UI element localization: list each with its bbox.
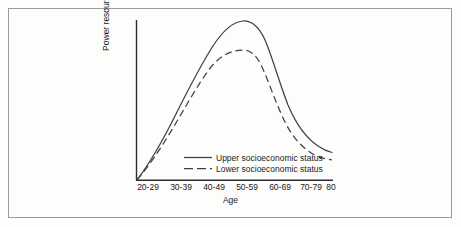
x-tick-label-6: 80 <box>322 182 340 192</box>
x-tick-label-0: 20-29 <box>132 182 164 192</box>
chart-figure: 20-29 30-39 40-49 50-59 60-69 70-79 80 A… <box>0 0 461 227</box>
x-tick-label-1: 30-39 <box>165 182 197 192</box>
legend-label-lower-socioeconomic-status: Lower socioeconomic status <box>216 164 323 174</box>
x-tick-label-3: 50-59 <box>231 182 263 192</box>
y-axis-title: Power resources <box>101 0 111 64</box>
plot-area <box>0 0 461 227</box>
legend-label-upper-socioeconomic-status: Upper socioeconomic status <box>216 153 323 163</box>
x-tick-label-4: 60-69 <box>264 182 296 192</box>
x-tick-label-2: 40-49 <box>198 182 230 192</box>
x-axis-title: Age <box>0 195 461 205</box>
